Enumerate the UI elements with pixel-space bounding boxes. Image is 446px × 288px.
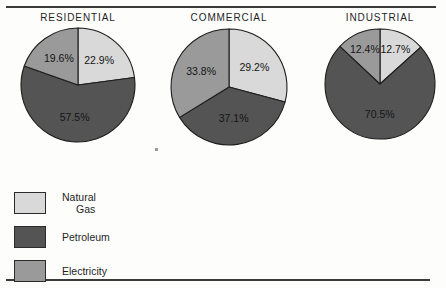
top-divider-rule: [6, 6, 436, 8]
legend-item-electricity: Electricity: [14, 254, 110, 288]
legend-label-electricity: Electricity: [62, 265, 107, 277]
pie-title-commercial: COMMERCIAL: [164, 12, 294, 23]
pie-slice-label: 12.4%: [350, 43, 380, 55]
pie-block-industrial: INDUSTRIAL 12.7%70.5%12.4%: [318, 12, 442, 143]
legend-label-natural-gas-line2: Gas: [62, 203, 96, 215]
legend-label-natural-gas-line1: Natural: [62, 191, 96, 203]
legend-label-petroleum: Petroleum: [62, 231, 110, 243]
pie-title-residential: RESIDENTIAL: [8, 12, 148, 23]
legend: NaturalGas Petroleum Electricity: [14, 186, 110, 288]
energy-consumption-pie-figure: RESIDENTIAL 22.9%57.5%19.6% COMMERCIAL 2…: [0, 0, 446, 288]
pie-chart-residential: 22.9%57.5%19.6%: [12, 27, 144, 147]
pie-slice-label: 37.1%: [219, 112, 249, 124]
pie-slice-label: 22.9%: [84, 54, 114, 66]
legend-label-natural-gas: NaturalGas: [62, 191, 96, 215]
legend-swatch-electricity: [14, 260, 46, 282]
pie-chart-industrial: 12.7%70.5%12.4%: [321, 27, 439, 143]
legend-swatch-natural-gas: [14, 192, 46, 214]
legend-item-petroleum: Petroleum: [14, 220, 110, 254]
pie-slice-label: 33.8%: [186, 65, 216, 77]
scan-artifact-speck: [155, 148, 158, 151]
pie-chart-commercial: 29.2%37.1%33.8%: [166, 27, 292, 147]
pie-slice-label: 19.6%: [44, 52, 74, 64]
pie-block-residential: RESIDENTIAL 22.9%57.5%19.6%: [8, 12, 148, 147]
legend-swatch-petroleum: [14, 226, 46, 248]
pie-block-commercial: COMMERCIAL 29.2%37.1%33.8%: [164, 12, 294, 147]
pie-slice-label: 70.5%: [365, 108, 395, 120]
pie-slice-label: 57.5%: [60, 111, 90, 123]
legend-item-natural-gas: NaturalGas: [14, 186, 110, 220]
pie-slice-label: 29.2%: [240, 61, 270, 73]
pie-title-industrial: INDUSTRIAL: [318, 12, 442, 23]
pie-slice-label: 12.7%: [381, 43, 411, 55]
